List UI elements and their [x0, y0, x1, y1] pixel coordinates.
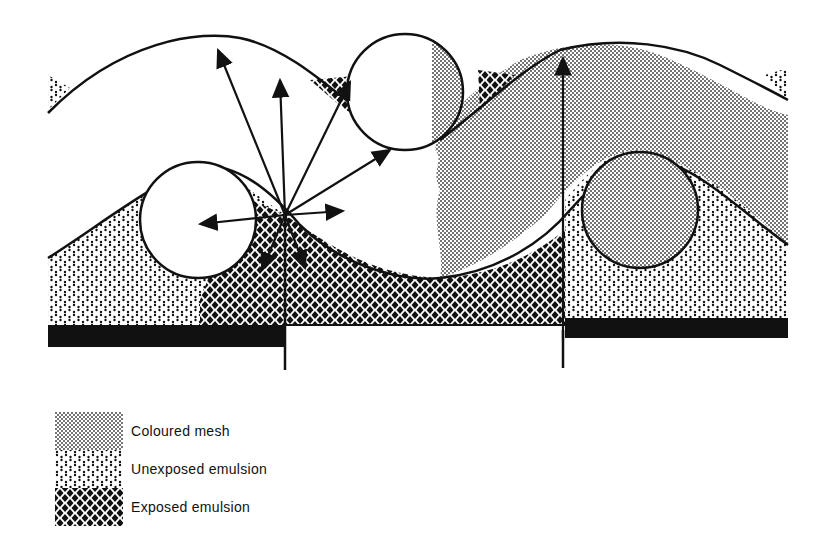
legend-label: Unexposed emulsion — [131, 461, 267, 477]
legend-label: Coloured mesh — [131, 423, 230, 439]
legend: Coloured mesh Unexposed emulsion Exposed… — [55, 412, 267, 526]
legend-item-unexposed-emulsion: Unexposed emulsion — [55, 450, 267, 488]
substrate-bar-right — [565, 318, 788, 338]
legend-label: Exposed emulsion — [131, 499, 250, 515]
arrow-right — [285, 211, 343, 215]
legend-item-exposed-emulsion: Exposed emulsion — [55, 488, 267, 526]
exposed-emulsion-swatch — [55, 488, 123, 526]
legend-item-coloured-mesh: Coloured mesh — [55, 412, 267, 450]
unexposed-emulsion-swatch — [55, 450, 123, 488]
thread-right-lower — [582, 152, 698, 268]
arrow-up — [280, 80, 285, 215]
coloured-mesh-swatch — [55, 412, 123, 450]
unexposed-emulsion-top-left — [48, 75, 70, 110]
substrate-bar-left — [48, 325, 285, 347]
